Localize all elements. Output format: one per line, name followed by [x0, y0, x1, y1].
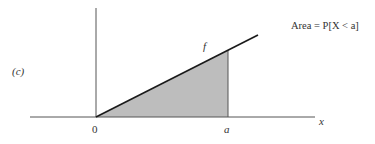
panel-label: (c): [12, 65, 25, 78]
x-axis-label: x: [318, 115, 324, 127]
probability-diagram: (c) Area = P[X < a] f x 0 a: [0, 0, 375, 144]
area-label: Area = P[X < a]: [291, 20, 359, 31]
origin-tick-label: 0: [92, 123, 98, 135]
a-tick-label: a: [224, 123, 230, 135]
curve-label: f: [203, 40, 208, 52]
